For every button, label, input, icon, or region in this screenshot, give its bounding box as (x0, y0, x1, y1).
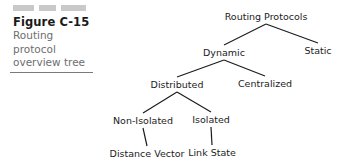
tree-node-centralized: Centralized (238, 78, 292, 89)
tree-edge-root-to-static (266, 24, 318, 43)
tree-edge-isolated-to-link-state (211, 127, 212, 145)
figure-page: Figure C-15 Routing protocol overview tr… (0, 0, 347, 157)
tree-node-static: Static (304, 45, 331, 56)
tree-edge-distributed-to-non-isolated (143, 92, 177, 113)
routing-protocol-tree: Routing ProtocolsDynamicStaticDistribute… (0, 0, 347, 157)
tree-node-distance-vector: Distance Vector (110, 148, 185, 157)
tree-edge-distributed-to-isolated (177, 92, 211, 112)
tree-node-distributed: Distributed (151, 79, 204, 90)
tree-edge-root-to-dynamic (224, 24, 266, 45)
tree-node-link-state: Link State (188, 147, 236, 157)
tree-node-dynamic: Dynamic (203, 47, 245, 58)
tree-node-non-isolated: Non-Isolated (113, 115, 173, 126)
tree-edge-dynamic-to-centralized (224, 60, 265, 76)
tree-edge-dynamic-to-distributed (177, 60, 224, 77)
tree-edge-non-isolated-to-distance-vector (143, 128, 147, 146)
tree-node-root: Routing Protocols (225, 11, 308, 22)
tree-node-isolated: Isolated (192, 114, 230, 125)
